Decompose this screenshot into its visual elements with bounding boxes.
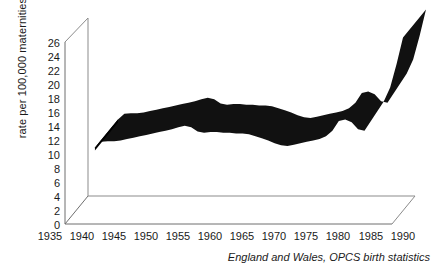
data-series-ribbon — [95, 9, 426, 150]
y-tick-label: 4 — [54, 191, 60, 203]
chart-caption: England and Wales, OPCS birth statistics — [228, 251, 431, 263]
x-tick-label: 1985 — [359, 230, 383, 242]
y-tick-label: 12 — [48, 135, 60, 147]
x-tick-label: 1990 — [391, 230, 415, 242]
x-tick-label: 1940 — [70, 230, 94, 242]
x-tick-label: 1935 — [38, 230, 62, 242]
y-tick-label: 14 — [48, 121, 60, 133]
chart-container: rate per 100,000 maternities 26 24 22 20 — [0, 0, 436, 278]
floor-right-diagonal — [392, 196, 415, 224]
y-axis-top-diagonal — [65, 18, 88, 42]
x-tick-label: 1955 — [166, 230, 190, 242]
x-tick-label: 1970 — [262, 230, 286, 242]
y-tick-label: 16 — [48, 107, 60, 119]
floor-left-diagonal — [65, 196, 88, 224]
x-tick-label: 1950 — [134, 230, 158, 242]
chart-plot-area: 26 24 22 20 18 16 14 12 10 8 6 4 2 0 193… — [0, 0, 436, 278]
x-tick-label: 1965 — [230, 230, 254, 242]
x-tick-label: 1960 — [198, 230, 222, 242]
y-tick-label: 18 — [48, 93, 60, 105]
x-axis-ticks: 1935 1940 1945 1950 1955 1960 1965 1970 … — [38, 230, 415, 242]
y-axis-ticks: 26 24 22 20 18 16 14 12 10 8 6 4 2 0 — [48, 37, 60, 231]
y-tick-label: 6 — [54, 177, 60, 189]
y-tick-label: 24 — [48, 51, 60, 63]
ribbon-top-face — [95, 9, 426, 147]
y-tick-label: 22 — [48, 65, 60, 77]
x-tick-label: 1975 — [294, 230, 318, 242]
y-tick-label: 26 — [48, 37, 60, 49]
x-tick-label: 1980 — [326, 230, 350, 242]
y-tick-label: 20 — [48, 79, 60, 91]
y-tick-label: 2 — [54, 205, 60, 217]
y-tick-label: 10 — [48, 149, 60, 161]
y-tick-label: 8 — [54, 163, 60, 175]
x-tick-label: 1945 — [102, 230, 126, 242]
